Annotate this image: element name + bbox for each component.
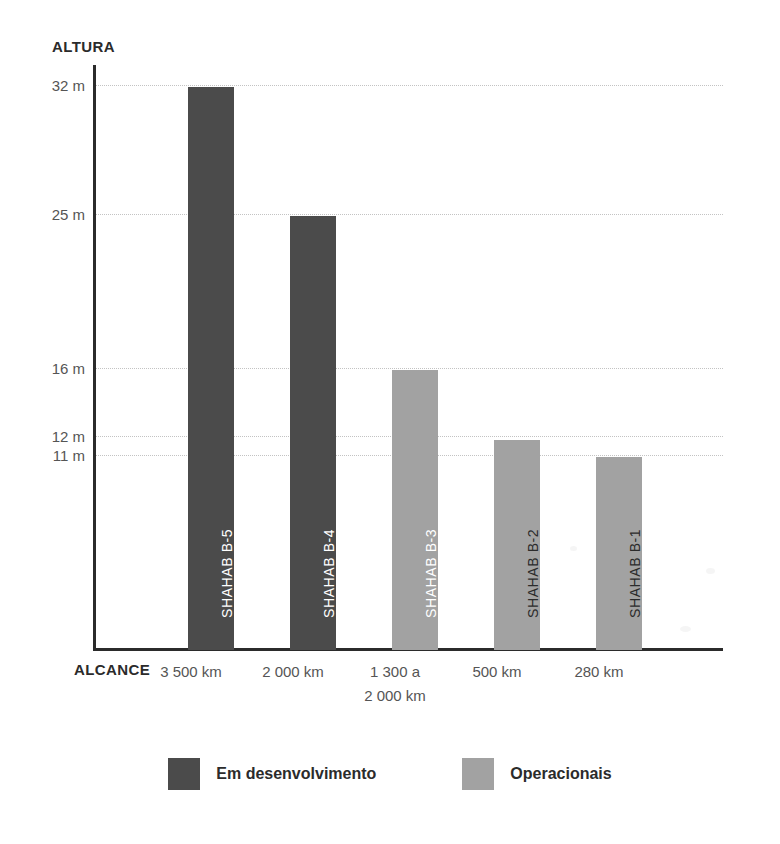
bar-shahab-b-1[interactable]: SHAHAB B-1 xyxy=(596,457,642,650)
legend-item-operacionais[interactable]: Operacionais xyxy=(462,758,611,790)
bar-shahab-b-3[interactable]: SHAHAB B-3 xyxy=(392,370,438,650)
legend: Em desenvolvimento Operacionais xyxy=(0,758,780,790)
y-tick-label-16m: 16 m xyxy=(33,360,85,377)
bar-label-shahab-b-4: SHAHAB B-4 xyxy=(321,529,337,618)
bar-label-shahab-b-3: SHAHAB B-3 xyxy=(423,529,439,618)
legend-label-operacionais: Operacionais xyxy=(510,765,611,783)
scan-artifact xyxy=(570,546,577,551)
y-tick-label-11m: 11 m xyxy=(33,447,85,464)
bar-label-shahab-b-5: SHAHAB B-5 xyxy=(219,529,235,618)
legend-swatch-icon xyxy=(462,758,494,790)
bar-label-shahab-b-2: SHAHAB B-2 xyxy=(525,529,541,618)
y-tick-label-25m: 25 m xyxy=(33,206,85,223)
bar-shahab-b-4[interactable]: SHAHAB B-4 xyxy=(290,216,336,650)
plot-area: SHAHAB B-5 SHAHAB B-4 SHAHAB B-3 SHAHAB … xyxy=(93,65,723,650)
bar-shahab-b-5[interactable]: SHAHAB B-5 xyxy=(188,87,234,650)
y-tick-label-32m: 32 m xyxy=(33,77,85,94)
legend-swatch-icon xyxy=(168,758,200,790)
legend-label-em-desenvolvimento: Em desenvolvimento xyxy=(216,765,376,783)
scan-artifact xyxy=(680,626,691,632)
y-tick-label-12m: 12 m xyxy=(33,428,85,445)
bar-shahab-b-2[interactable]: SHAHAB B-2 xyxy=(494,440,540,650)
legend-item-em-desenvolvimento[interactable]: Em desenvolvimento xyxy=(168,758,376,790)
x-category-label-280km: 280 km xyxy=(536,660,662,684)
scan-artifact xyxy=(706,568,715,574)
y-axis-title: ALTURA xyxy=(52,38,115,55)
bar-chart: ALTURA ALCANCE 32 m 25 m 16 m 12 m 11 m … xyxy=(0,0,780,844)
bar-label-shahab-b-1: SHAHAB B-1 xyxy=(627,529,643,618)
